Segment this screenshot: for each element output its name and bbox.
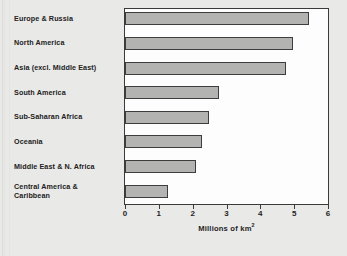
- bar: [125, 86, 219, 99]
- category-label-line: Asia (excl. Middle East): [14, 63, 96, 72]
- x-axis-title-superscript: 2: [252, 222, 255, 228]
- category-label: Sub-Saharan Africa: [14, 112, 122, 121]
- category-label-line: Sub-Saharan Africa: [14, 112, 82, 121]
- category-label: North America: [14, 38, 122, 47]
- x-tick-label: 3: [217, 209, 237, 218]
- x-tick-label: 4: [250, 209, 270, 218]
- x-tick-label: 2: [183, 209, 203, 218]
- x-tick-label: 6: [318, 209, 338, 218]
- bar: [125, 37, 293, 50]
- chart-figure: Europe & RussiaNorth AmericaAsia (excl. …: [0, 0, 347, 256]
- category-label-line: Middle East & N. Africa: [14, 162, 95, 171]
- category-label: Europe & Russia: [14, 14, 122, 23]
- category-label-line: North America: [14, 38, 65, 47]
- bar: [125, 135, 202, 148]
- bar: [125, 160, 196, 173]
- x-axis-title-text: Millions of km: [198, 224, 251, 233]
- bar: [125, 185, 168, 198]
- category-label: Asia (excl. Middle East): [14, 63, 122, 72]
- category-label: Oceania: [14, 137, 122, 146]
- category-label-line: Oceania: [14, 137, 43, 146]
- plot-area: [124, 8, 329, 205]
- category-label: Central America &Caribbean: [14, 182, 122, 200]
- x-axis-tick-labels: 0123456: [124, 209, 329, 221]
- category-axis-labels: Europe & RussiaNorth AmericaAsia (excl. …: [0, 8, 120, 205]
- category-label-line: Caribbean: [14, 191, 50, 200]
- category-label-line: Europe & Russia: [14, 14, 73, 23]
- x-tick-label: 1: [149, 209, 169, 218]
- bar: [125, 12, 309, 25]
- category-label: South America: [14, 88, 122, 97]
- bar: [125, 62, 286, 75]
- x-axis-title: Millions of km2: [124, 224, 329, 233]
- x-tick-label: 0: [115, 209, 135, 218]
- category-label-line: South America: [14, 88, 66, 97]
- x-tick-label: 5: [284, 209, 304, 218]
- category-label-line: Central America &: [14, 182, 78, 191]
- category-label: Middle East & N. Africa: [14, 162, 122, 171]
- bar: [125, 111, 209, 124]
